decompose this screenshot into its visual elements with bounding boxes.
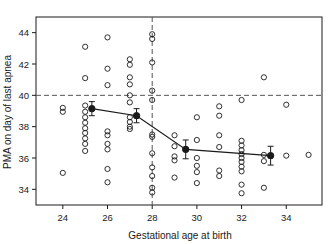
x-tick-label: 32 xyxy=(236,212,247,223)
y-tick-label: 44 xyxy=(18,27,29,38)
x-tick-label: 26 xyxy=(102,212,113,223)
y-tick-label: 38 xyxy=(18,121,29,132)
x-tick-label: 34 xyxy=(281,212,292,223)
mean-marker xyxy=(133,113,139,119)
x-tick-label: 28 xyxy=(147,212,158,223)
scatter-plot-figure: 242628303234 343638404244 Gestational ag… xyxy=(0,0,329,244)
x-tick-label: 30 xyxy=(192,212,203,223)
x-axis-title: Gestational age at birth xyxy=(128,230,231,241)
y-tick-label: 40 xyxy=(18,90,29,101)
y-tick-label: 42 xyxy=(18,59,29,70)
mean-marker xyxy=(89,105,95,111)
chart-background xyxy=(0,0,329,244)
y-axis-title: PMA on day of last apnea xyxy=(2,55,13,169)
y-tick-label: 34 xyxy=(18,184,29,195)
x-tick-label: 24 xyxy=(58,212,69,223)
chart-canvas: 242628303234 343638404244 Gestational ag… xyxy=(0,0,329,244)
mean-marker xyxy=(267,152,273,158)
y-tick-label: 36 xyxy=(18,153,29,164)
mean-marker xyxy=(183,146,189,152)
